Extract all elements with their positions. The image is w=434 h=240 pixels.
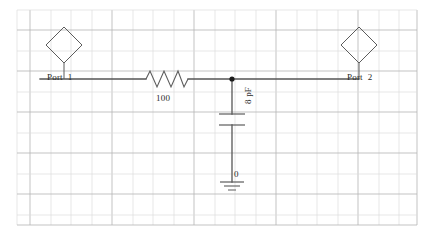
- grid-vertical-minor: [17, 10, 399, 225]
- capacitor-symbol[interactable]: [219, 114, 245, 125]
- schematic-drawing: [0, 0, 434, 240]
- junction-dot: [229, 76, 234, 81]
- resistor-zigzag-icon: [146, 71, 188, 87]
- resistor-symbol[interactable]: [146, 71, 188, 87]
- schematic-canvas: Port 1 Port 2 100 8 pF 0: [0, 0, 434, 240]
- port2-diamond-icon: [341, 27, 377, 63]
- ground-value-label: 0: [234, 169, 239, 179]
- grid-horizontal-minor: [17, 10, 417, 215]
- wire-layer: [40, 79, 359, 182]
- capacitor-value-label: 8 pF: [243, 87, 253, 104]
- grid-vertical-major: [30, 10, 417, 225]
- port1-diamond-icon: [46, 27, 82, 63]
- grid-horizontal-major: [17, 30, 417, 225]
- grid-layer: [17, 10, 417, 225]
- ground-symbol[interactable]: [220, 182, 244, 190]
- port1-label: Port 1: [47, 72, 72, 82]
- port2-label: Port 2: [347, 72, 372, 82]
- resistor-value-label: 100: [156, 93, 170, 103]
